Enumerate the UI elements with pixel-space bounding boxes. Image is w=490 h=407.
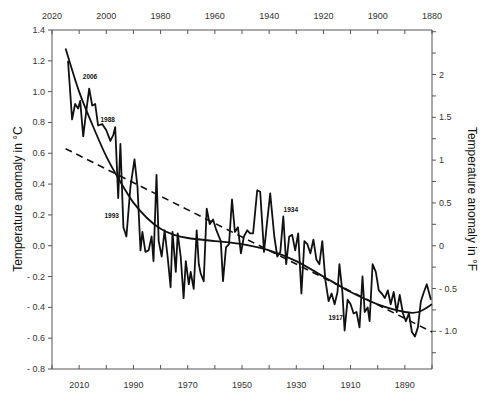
y-axis-title-fahrenheit: Temperature anomaly in °F xyxy=(465,127,479,271)
y-axis-title-celsius: Temperature anomaly in °C xyxy=(11,126,25,272)
right-tick-label: 0 xyxy=(439,241,444,251)
top-tick-label: 1980 xyxy=(151,11,171,21)
annotation-label: 1993 xyxy=(104,212,119,219)
bottom-tick-label: 1950 xyxy=(232,380,252,390)
left-tick-label: 0.4 xyxy=(32,179,45,189)
bottom-tick-label: 1970 xyxy=(178,380,198,390)
smoothed-curve-line xyxy=(66,49,432,313)
left-tick-label: - 0.8 xyxy=(27,364,45,374)
right-tick-label: - 0.5 xyxy=(439,284,457,294)
bottom-tick-label: 1990 xyxy=(123,380,143,390)
annual-anomaly-line xyxy=(68,61,431,337)
top-tick-label: 1920 xyxy=(313,11,333,21)
linear-trend-line xyxy=(66,149,432,332)
top-tick-label: 1900 xyxy=(368,11,388,21)
annotation-label: 1917 xyxy=(328,314,343,321)
left-tick-label: - 0.2 xyxy=(27,272,45,282)
axes: 2020200019801960194019201900188020101990… xyxy=(27,11,457,390)
series-layer xyxy=(66,49,432,337)
top-tick-label: 1880 xyxy=(422,11,442,21)
left-tick-label: 1.0 xyxy=(32,87,45,97)
top-tick-label: 2000 xyxy=(96,11,116,21)
right-tick-label: 0.5 xyxy=(439,198,452,208)
left-tick-label: 0.0 xyxy=(32,241,45,251)
right-tick-label: - 1.0 xyxy=(439,326,457,336)
right-tick-label: 1.5 xyxy=(439,112,452,122)
annotation-label: 1934 xyxy=(284,206,299,213)
left-tick-label: 1.4 xyxy=(32,25,45,35)
annotation-label: 1988 xyxy=(100,116,115,123)
left-tick-label: - 0.6 xyxy=(27,333,45,343)
annotation-label: 2006 xyxy=(83,73,98,80)
top-tick-label: 1940 xyxy=(259,11,279,21)
left-tick-label: 0.8 xyxy=(32,117,45,127)
bottom-tick-label: 1910 xyxy=(341,380,361,390)
left-tick-label: 1.2 xyxy=(32,56,45,66)
top-tick-label: 2020 xyxy=(42,11,62,21)
bottom-tick-label: 2010 xyxy=(69,380,89,390)
left-tick-label: 0.6 xyxy=(32,148,45,158)
right-tick-label: 1 xyxy=(439,155,444,165)
top-tick-label: 1960 xyxy=(205,11,225,21)
bottom-tick-label: 1890 xyxy=(395,380,415,390)
left-tick-label: - 0.4 xyxy=(27,302,45,312)
left-tick-label: 0.2 xyxy=(32,210,45,220)
temperature-anomaly-chart: 2020200019801960194019201900188020101990… xyxy=(0,0,490,407)
right-tick-label: 2 xyxy=(439,70,444,80)
bottom-tick-label: 1930 xyxy=(286,380,306,390)
